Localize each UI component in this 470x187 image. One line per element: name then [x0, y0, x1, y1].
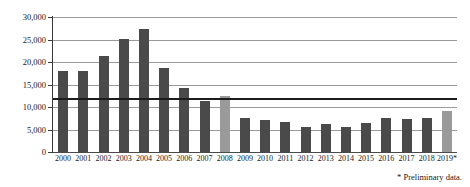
bar	[58, 71, 68, 152]
bar-chart: 05,00010,00015,00020,00025,00030,000 200…	[0, 0, 470, 187]
bar	[139, 29, 149, 152]
y-tick-label: 20,000	[0, 57, 46, 67]
x-tick-label: 2019*	[437, 154, 457, 163]
bar	[119, 39, 129, 152]
y-tick-label: 15,000	[0, 80, 46, 90]
bar	[200, 101, 210, 152]
x-tick-label: 2014	[336, 154, 356, 163]
x-tick-label: 2009	[235, 154, 255, 163]
y-tick-label: 5,000	[0, 125, 46, 135]
y-tick-label: 30,000	[0, 12, 46, 22]
bar	[301, 127, 311, 152]
x-tick-label: 2018	[417, 154, 437, 163]
footnote: * Preliminary data.	[397, 172, 462, 182]
x-tick-label: 2013	[316, 154, 336, 163]
x-tick-label: 2010	[255, 154, 275, 163]
bar	[159, 68, 169, 152]
bar	[260, 120, 270, 152]
x-tick-label: 2012	[295, 154, 315, 163]
x-tick-label: 2007	[194, 154, 214, 163]
x-tick-label: 2006	[174, 154, 194, 163]
x-tick-label: 2016	[376, 154, 396, 163]
x-tick-label: 2004	[134, 154, 154, 163]
bar	[99, 56, 109, 152]
x-tick-label: 2015	[356, 154, 376, 163]
x-axis-labels: 2000200120022003200420052006200720082009…	[53, 154, 457, 168]
bar	[321, 124, 331, 152]
bar	[280, 122, 290, 152]
plot-area	[53, 17, 457, 152]
y-tick-label: 0	[0, 147, 46, 157]
x-tick-label: 2003	[114, 154, 134, 163]
y-tick-label: 10,000	[0, 102, 46, 112]
bars	[53, 17, 457, 152]
bar	[220, 96, 230, 152]
y-tick-label: 25,000	[0, 35, 46, 45]
bar	[78, 71, 88, 152]
bar	[381, 118, 391, 152]
reference-line	[53, 98, 457, 100]
x-tick-label: 2011	[275, 154, 295, 163]
x-tick-label: 2001	[73, 154, 93, 163]
bar	[422, 118, 432, 152]
x-tick-label: 2017	[396, 154, 416, 163]
bar	[442, 111, 452, 152]
x-tick-label: 2000	[53, 154, 73, 163]
x-tick-label: 2002	[93, 154, 113, 163]
bar	[402, 119, 412, 152]
bar	[240, 118, 250, 152]
bar	[341, 127, 351, 152]
axis-baseline	[53, 152, 457, 153]
x-tick-label: 2008	[215, 154, 235, 163]
bar	[361, 123, 371, 152]
x-tick-label: 2005	[154, 154, 174, 163]
